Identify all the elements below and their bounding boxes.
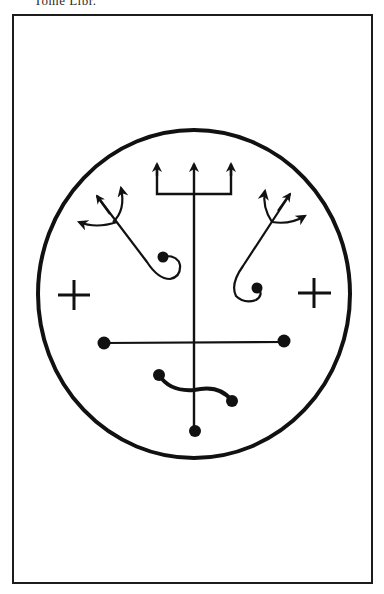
right-trident-spiral bbox=[234, 191, 305, 301]
bottom-dot bbox=[189, 425, 201, 437]
s-curve-with-dots bbox=[153, 369, 238, 407]
right-cross bbox=[298, 278, 331, 308]
left-trident-spiral bbox=[79, 188, 180, 279]
left-cross bbox=[58, 280, 90, 310]
seal-figure bbox=[0, 0, 384, 594]
